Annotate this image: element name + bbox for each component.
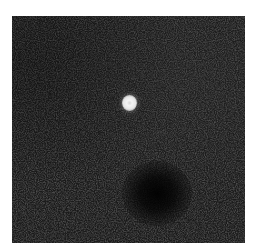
grayscale-image-panel: [12, 16, 245, 243]
cropped-caption-text: [0, 0, 257, 4]
bright-spot: [122, 95, 137, 111]
figure-page: [0, 0, 257, 252]
dark-region: [122, 161, 192, 226]
